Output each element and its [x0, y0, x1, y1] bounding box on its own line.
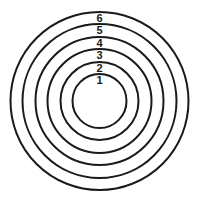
ring-label-3: 3 — [96, 49, 102, 61]
ring-label-2: 2 — [96, 62, 102, 74]
concentric-circles-diagram: 123456 — [0, 0, 199, 205]
ring-label-6: 6 — [96, 12, 102, 24]
ring-label-1: 1 — [96, 74, 102, 86]
ring-label-5: 5 — [96, 24, 102, 36]
ring-label-4: 4 — [96, 37, 103, 49]
